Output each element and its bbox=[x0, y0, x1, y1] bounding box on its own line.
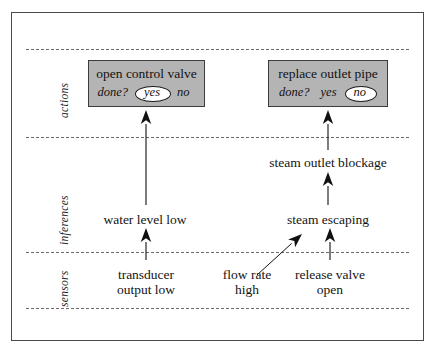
separator-actions-inferences bbox=[26, 137, 409, 138]
node-line: water level low bbox=[103, 212, 186, 227]
separator-top bbox=[26, 49, 409, 50]
node-line: high bbox=[223, 282, 271, 297]
band-label-inferences: inferences bbox=[58, 195, 70, 245]
node-line: flow rate bbox=[223, 267, 271, 282]
node-flow-rate-high: flow rate high bbox=[223, 267, 271, 297]
done-label: done? bbox=[279, 85, 310, 100]
node-release-valve-open: release valve open bbox=[295, 267, 365, 297]
option-no[interactable]: no bbox=[173, 85, 194, 100]
separator-bottom bbox=[26, 308, 409, 309]
action-box-open-control-valve[interactable]: open control valve done? yes no bbox=[88, 60, 205, 107]
node-steam-escaping: steam escaping bbox=[287, 212, 369, 227]
node-transducer-output-low: transducer output low bbox=[117, 267, 175, 297]
node-line: transducer bbox=[117, 267, 175, 282]
action-title: open control valve bbox=[96, 67, 196, 81]
diagram-canvas: actions inferences sensors open control … bbox=[0, 0, 442, 360]
node-line: release valve bbox=[295, 267, 365, 282]
separator-inferences-sensors bbox=[26, 252, 409, 253]
node-water-level-low: water level low bbox=[103, 212, 186, 227]
action-title: replace outlet pipe bbox=[278, 67, 378, 81]
action-status-row: done? yes no bbox=[97, 85, 195, 100]
node-line: open bbox=[295, 282, 365, 297]
node-line: steam outlet blockage bbox=[269, 155, 387, 170]
option-yes[interactable]: yes bbox=[317, 85, 341, 100]
band-label-sensors: sensors bbox=[58, 270, 70, 307]
node-line: output low bbox=[117, 282, 175, 297]
option-yes-selected[interactable]: yes bbox=[135, 85, 169, 100]
action-status-row: done? yes no bbox=[279, 85, 377, 100]
band-label-actions: actions bbox=[58, 83, 70, 118]
done-label: done? bbox=[97, 85, 128, 100]
action-box-replace-outlet-pipe[interactable]: replace outlet pipe done? yes no bbox=[268, 60, 388, 107]
node-steam-outlet-blockage: steam outlet blockage bbox=[269, 155, 387, 170]
node-line: steam escaping bbox=[287, 212, 369, 227]
option-no-selected[interactable]: no bbox=[345, 85, 376, 100]
